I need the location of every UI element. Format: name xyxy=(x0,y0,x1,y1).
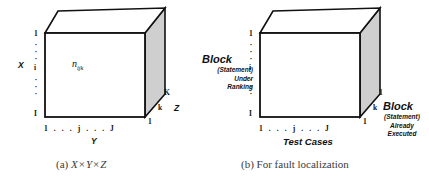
caption-a-z: Z xyxy=(100,158,106,170)
axis-label-x: X xyxy=(18,60,24,70)
axis-z-tick-far: K xyxy=(164,89,170,97)
vertical-axis-subtitle: (Statement) Under Ranking xyxy=(199,66,253,92)
axis-y-ticks: 1 . . . j . . . J xyxy=(44,124,116,133)
axis-block-tick-bottom: I xyxy=(249,110,252,118)
vertical-axis-title-block: Block xyxy=(202,53,232,65)
axis-block-dots-upper: ··· xyxy=(247,41,255,63)
depth-axis-subtitle-line-2: Already xyxy=(390,122,414,129)
axis-z-tick-mid: k xyxy=(158,104,162,112)
axis-testcases-ticks: 1 . . . j . . . J xyxy=(259,124,331,133)
caption-a-x: X xyxy=(71,158,78,170)
cube-a-cell-label: nijk xyxy=(72,58,84,71)
vertical-axis-subtitle-line-1: (Statement) xyxy=(217,66,253,73)
axis-depth-tick-near: 1 xyxy=(363,118,367,126)
figure-cubes: nijk X 1 ··· i ··· I 1 . . . j . . . J Y… xyxy=(0,0,429,184)
cube-a-top-face xyxy=(45,8,165,33)
axis-x-tick-top: 1 xyxy=(34,30,38,38)
axis-label-y: Y xyxy=(91,136,97,146)
caption-b: (b) For fault localization xyxy=(241,158,349,170)
cube-a-front-face xyxy=(45,33,145,117)
axis-x-tick-mid: i xyxy=(34,64,36,72)
caption-a: (a) X×Y×Z xyxy=(56,158,106,170)
cube-b-front-face xyxy=(260,33,360,117)
depth-axis-subtitle: (Statement) Already Executed xyxy=(373,113,429,139)
caption-a-prefix: (a) xyxy=(56,158,68,170)
depth-axis-title-block: Block xyxy=(383,100,413,112)
panel-a: nijk X 1 ··· i ··· I 1 . . . j . . . J Y… xyxy=(0,0,214,184)
panel-b: Block (Statement) Under Ranking 1 ··· i … xyxy=(215,0,429,184)
axis-block-dots-lower: ··· xyxy=(247,76,255,98)
caption-a-times-1: × xyxy=(78,158,86,170)
axis-x-dots-lower: ··· xyxy=(32,76,40,98)
axis-block-tick-top: 1 xyxy=(249,30,253,38)
axis-block-tick-mid: i xyxy=(249,64,251,72)
axis-depth-tick-far: 1 xyxy=(379,89,383,97)
axis-depth-tick-mid: k xyxy=(373,104,377,112)
axis-z-tick-near: 1 xyxy=(148,118,152,126)
caption-b-text: For fault localization xyxy=(257,158,349,170)
axis-x-dots-upper: ··· xyxy=(32,41,40,63)
axis-x-tick-bottom: I xyxy=(34,110,37,118)
axis-label-z: Z xyxy=(174,103,179,113)
axis-label-test-cases: Test Cases xyxy=(283,136,333,147)
cube-b-top-face xyxy=(260,8,380,33)
depth-axis-subtitle-line-1: (Statement) xyxy=(384,113,420,120)
caption-b-prefix: (b) xyxy=(241,158,254,170)
depth-axis-subtitle-line-3: Executed xyxy=(388,130,417,137)
